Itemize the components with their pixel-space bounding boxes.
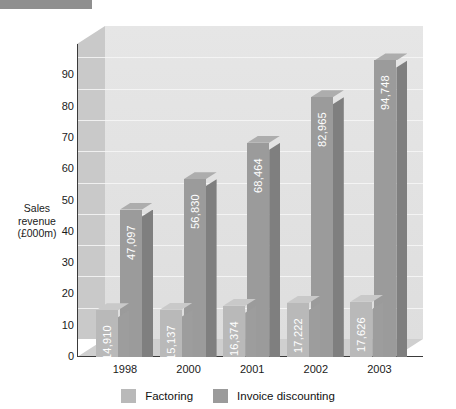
bar-value-label: 17,222 <box>293 318 304 353</box>
bar-value-label: 47,097 <box>126 225 137 260</box>
chart-legend: FactoringInvoice discounting <box>0 386 456 406</box>
x-axis-tick-label: 2003 <box>349 363 409 375</box>
bar-side-face <box>206 179 217 357</box>
bar-value-label: 94,748 <box>380 76 391 111</box>
bar-side-face <box>372 302 383 357</box>
bar-top-face <box>184 172 217 179</box>
bar-value-label: 56,830 <box>190 194 201 229</box>
chart-screenshot: 0102030405060708090 Sales revenue (£000m… <box>0 0 456 409</box>
bar-value-label: 15,137 <box>166 325 177 360</box>
bar-chart: 0102030405060708090 Sales revenue (£000m… <box>0 0 456 378</box>
bar-value-label: 17,626 <box>356 317 367 352</box>
bar-series-container: 14,91047,09715,13756,83016,37468,46417,2… <box>0 0 456 378</box>
x-axis-tick-label: 1998 <box>95 363 155 375</box>
bar-side-face <box>142 210 153 357</box>
bar-value-label: 14,910 <box>102 325 113 360</box>
x-axis-tick-label: 2001 <box>222 363 282 375</box>
bar-top-face <box>374 53 407 60</box>
bar-side-face <box>182 310 193 357</box>
x-axis-tick-label: 2002 <box>286 363 346 375</box>
bar-side-face <box>309 303 320 357</box>
bar-side-face <box>245 306 256 357</box>
bar-value-label: 82,965 <box>317 112 328 147</box>
bar-value-label: 16,374 <box>229 321 240 356</box>
bar-side-face <box>396 60 407 357</box>
bar-top-face <box>120 203 153 210</box>
bar-value-label: 68,464 <box>253 158 264 193</box>
legend-swatch <box>213 389 228 403</box>
bar-top-face <box>311 90 344 97</box>
legend-swatch <box>121 389 136 403</box>
bar-top-face <box>247 136 280 143</box>
bar-side-face <box>269 143 280 357</box>
x-axis-tick-label: 2000 <box>159 363 219 375</box>
legend-label: Invoice discounting <box>237 390 335 402</box>
legend-item[interactable]: Factoring <box>121 389 193 403</box>
bar-side-face <box>333 97 344 357</box>
legend-item[interactable]: Invoice discounting <box>213 389 335 403</box>
bar-side-face <box>118 310 129 357</box>
legend-label: Factoring <box>145 390 193 402</box>
